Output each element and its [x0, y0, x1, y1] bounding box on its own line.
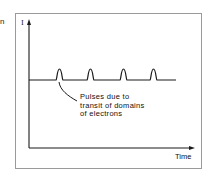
current-signal-trace [29, 69, 176, 80]
y-axis-label: I [21, 19, 24, 28]
annotation-leader-line [59, 82, 77, 101]
x-axis-label: Time [175, 153, 191, 162]
y-axis-arrow-icon [27, 19, 31, 25]
annotation-line-3: of electrons [80, 110, 145, 119]
x-axis-arrow-icon [189, 146, 195, 150]
pulse-annotation: Pulses due to transit of domains of elec… [80, 93, 145, 119]
